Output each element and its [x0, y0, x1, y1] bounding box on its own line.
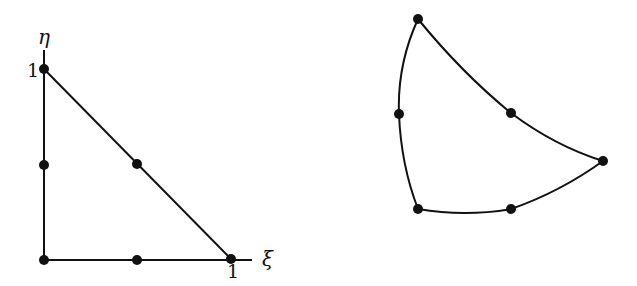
node-dot [132, 159, 142, 169]
node-dot [394, 109, 404, 119]
node-dot [39, 255, 49, 265]
curved-element-nodes [394, 14, 608, 214]
xi-tick-one: 1 [227, 260, 239, 282]
curved-element [394, 14, 608, 214]
node-dot [39, 64, 49, 74]
node-dot [132, 255, 142, 265]
node-dot [598, 156, 608, 166]
node-dot [39, 160, 49, 170]
diagram-canvas: η ξ 1 1 [0, 0, 637, 286]
eta-axis-label: η [38, 25, 50, 49]
curved-element-boundary [399, 19, 603, 213]
node-dot [506, 204, 516, 214]
reference-triangle: η ξ 1 1 [27, 25, 274, 282]
node-dot [506, 108, 516, 118]
node-dot [413, 204, 423, 214]
node-dot [413, 14, 423, 24]
eta-tick-one: 1 [27, 59, 39, 81]
xi-axis-label: ξ [262, 247, 274, 271]
